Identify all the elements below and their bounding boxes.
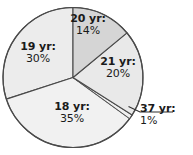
- pie-chart-graphic: [0, 0, 193, 155]
- pie-chart-figure: 20 yr: 14% 21 yr: 20% 37 yr: 1% 18 yr: 3…: [0, 0, 193, 155]
